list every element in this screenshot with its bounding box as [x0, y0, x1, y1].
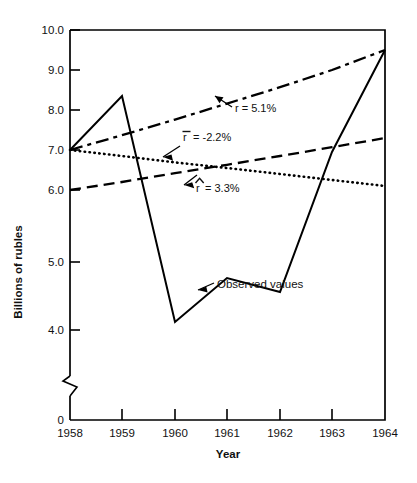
annotation-r-hat-rest: = 3.3%	[205, 182, 240, 194]
x-tick-label: 1959	[109, 427, 135, 439]
y-tick-label: 0	[58, 414, 64, 426]
annotation-r-hat-symbol: r	[196, 182, 200, 194]
axis-break-symbol	[63, 376, 77, 396]
y-tick-labels: 10.0 9.0 8.0 7.0 6.0 5.0 4.0 0	[42, 24, 64, 426]
series-r-bar	[70, 150, 385, 186]
x-tick-label: 1961	[214, 427, 240, 439]
annotation-r-hat: r = 3.3%	[184, 175, 240, 194]
annotation-observed-label: Observed values	[217, 278, 304, 290]
x-tick-label: 1964	[372, 427, 398, 439]
x-tick-label: 1962	[267, 427, 293, 439]
y-tickmarks	[70, 30, 80, 330]
annotation-r-bar: r = -2.2%	[163, 131, 231, 161]
annotation-r-bar-rest: = -2.2%	[193, 131, 231, 143]
y-tick-label: 9.0	[48, 64, 64, 76]
y-axis-title: Billions of rubles	[12, 225, 24, 318]
r-hat-glyph: r	[196, 182, 200, 194]
annotation-r-label: r = 5.1%	[235, 102, 276, 114]
y-tick-label: 6.0	[48, 184, 64, 196]
plot-frame	[63, 30, 385, 420]
y-tick-label: 7.0	[48, 144, 64, 156]
y-tick-label: 5.0	[48, 256, 64, 268]
x-tickmarks	[122, 409, 332, 420]
r-bar-glyph: r	[183, 131, 187, 143]
x-axis-title: Year	[216, 448, 241, 460]
y-tick-label: 4.0	[48, 324, 64, 336]
annotation-r-bar-symbol: r	[183, 131, 187, 143]
x-tick-labels: 1958 1959 1960 1961 1962 1963 1964	[57, 427, 398, 439]
x-tick-label: 1960	[162, 427, 188, 439]
y-tick-label: 10.0	[42, 24, 64, 36]
chart-figure: 10.0 9.0 8.0 7.0 6.0 5.0 4.0 0 1958 1959…	[0, 0, 417, 483]
chart-canvas: 10.0 9.0 8.0 7.0 6.0 5.0 4.0 0 1958 1959…	[0, 0, 417, 483]
x-tick-label: 1963	[319, 427, 345, 439]
x-tick-label: 1958	[57, 427, 83, 439]
y-tick-label: 8.0	[48, 104, 64, 116]
